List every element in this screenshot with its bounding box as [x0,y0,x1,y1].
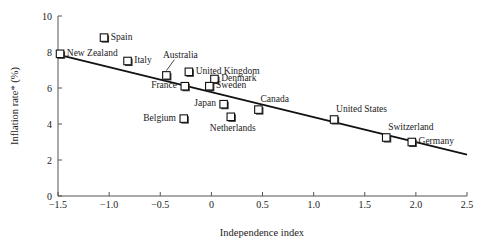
data-point-label: Japan [194,98,216,108]
x-tick-label: 2.5 [461,199,474,210]
x-tick-label: −1.0 [100,199,118,210]
data-marker [220,100,228,108]
data-marker [124,57,132,65]
y-tick-label: 10 [42,11,52,22]
y-tick-label: 0 [47,191,52,202]
data-point-label: New Zealand [67,48,118,58]
data-point-label: Netherlands [210,123,256,133]
data-point-label: Canada [260,94,289,104]
data-marker [180,115,188,123]
data-point-label: Spain [111,32,133,42]
data-marker [382,134,390,142]
inflation-independence-scatter-chart: −1.5−1.0−0.500.51.01.52.02.50246810 Inde… [0,0,488,241]
data-marker [181,82,189,90]
y-tick-label: 2 [47,155,52,166]
data-marker [185,68,193,76]
x-axis-title: Independence index [220,227,305,238]
data-point-label: Switzerland [388,122,433,132]
x-tick-label: 1.0 [307,199,320,210]
data-marker [408,138,416,146]
data-point-label: Australia [163,50,198,60]
y-tick-label: 6 [47,83,52,94]
leader-lines [166,60,174,71]
data-marker [330,116,338,124]
y-axis-title: Inflation rate* (%) [9,66,21,145]
data-point-label: Germany [419,136,454,146]
x-tick-label: −0.5 [151,199,169,210]
data-point-label: United States [336,104,387,114]
data-point-label: Belgium [143,113,176,123]
x-tick-label: 2.0 [410,199,423,210]
data-point-label: Italy [134,55,151,65]
data-point-label: France [151,80,177,90]
x-tick-label: 0.5 [256,199,269,210]
data-marker [56,50,64,58]
data-marker [206,82,214,90]
y-tick-label: 4 [47,119,52,130]
x-tick-label: 0 [209,199,214,210]
x-tick-label: 1.5 [359,199,372,210]
plot-area: −1.5−1.0−0.500.51.01.52.02.50246810 Inde… [0,0,488,241]
data-marker [227,113,235,121]
data-marker [100,34,108,42]
y-tick-label: 8 [47,47,52,58]
data-marker [163,72,171,80]
trend-line [58,55,467,155]
data-point-label: Sweden [216,80,246,90]
data-marker [255,106,263,114]
